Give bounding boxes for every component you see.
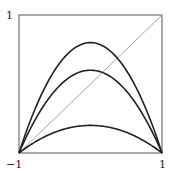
curves-group bbox=[19, 43, 162, 153]
x-tick-1: 1 bbox=[159, 158, 166, 171]
x-tick-minus-1: −1 bbox=[6, 158, 22, 171]
chart: 1 −1 1 bbox=[0, 0, 175, 173]
y-tick-1: 1 bbox=[6, 9, 13, 22]
diagonal-line bbox=[19, 15, 162, 153]
curve-mid bbox=[19, 70, 162, 153]
curve-low bbox=[19, 125, 162, 153]
curve-high bbox=[19, 43, 162, 153]
